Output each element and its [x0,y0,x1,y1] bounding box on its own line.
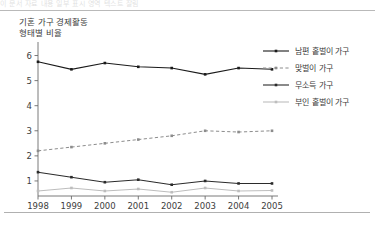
legend-item-label: 남편 홑벌이 가구 [295,45,349,56]
legend-key-icon [262,62,290,74]
data-point-marker [137,178,140,181]
data-point-marker [137,188,140,191]
chart-legend: 남편 홑벌이 가구맞벌이 가구무소득 가구부인 홑벌이 가구 [262,42,374,110]
data-point-marker [70,176,73,179]
legend-key-icon [262,45,290,57]
data-point-marker [271,182,274,185]
legend-item[interactable]: 맞벌이 가구 [262,59,374,76]
data-point-marker [271,189,274,192]
data-point-marker [70,187,73,190]
data-point-marker [137,66,140,69]
data-point-marker [104,142,107,145]
data-point-marker [237,182,240,185]
data-point-marker [104,62,107,65]
legend-key-icon [262,96,290,108]
x-axis-tick-label: 1999 [61,201,83,211]
data-point-marker [70,146,73,149]
data-point-marker [271,129,274,132]
x-axis-tick-label: 2000 [94,201,116,211]
data-point-marker [37,171,40,174]
footer-divider [4,212,370,213]
legend-item[interactable]: 무소득 가구 [262,76,374,93]
x-axis-tick-label: 2002 [161,201,183,211]
data-point-marker [137,138,140,141]
series-line [38,188,272,192]
series-line [38,62,272,75]
data-point-marker [170,134,173,137]
data-point-marker [237,67,240,70]
x-axis-tick-label: 2001 [127,201,149,211]
data-point-marker [170,191,173,194]
legend-item[interactable]: 남편 홑벌이 가구 [262,42,374,59]
legend-item-label: 무소득 가구 [295,79,333,90]
y-axis-tick-label: 5 [27,76,32,86]
series-line [38,131,272,151]
data-point-marker [170,183,173,186]
x-axis-tick-label: 2003 [194,201,216,211]
data-point-marker [37,60,40,63]
legend-key-icon [262,79,290,91]
legend-item-label: 맞벌이 가구 [295,62,333,73]
y-axis-tick-label: 4 [27,101,32,111]
x-axis-tick-label: 2005 [261,201,283,211]
y-axis-tick-label: 6 [27,51,32,61]
line-chart: 12345619981999200020012002200320042005 [0,0,375,230]
chart-page: 이 문서 자료 내용 일부 표시 영역 텍스트 잘림 기혼 가구 경제활동 형태… [0,0,375,230]
data-point-marker [204,187,207,190]
y-axis-tick-label: 2 [27,151,32,161]
data-point-marker [170,67,173,70]
data-point-marker [204,180,207,183]
data-point-marker [37,150,40,153]
data-point-marker [204,73,207,76]
chart-svg: 12345619981999200020012002200320042005 [0,0,375,230]
data-point-marker [104,190,107,193]
x-axis-tick-label: 1998 [27,201,49,211]
y-axis-tick-label: 1 [27,176,32,186]
data-point-marker [70,68,73,71]
data-point-marker [104,181,107,184]
series-line [38,172,272,185]
legend-item-label: 부인 홑벌이 가구 [295,96,349,107]
data-point-marker [237,131,240,134]
data-point-marker [204,129,207,132]
x-axis-tick-label: 2004 [228,201,250,211]
y-axis-tick-label: 3 [27,126,32,136]
data-point-marker [237,190,240,193]
legend-item[interactable]: 부인 홑벌이 가구 [262,93,374,110]
data-point-marker [37,190,40,193]
